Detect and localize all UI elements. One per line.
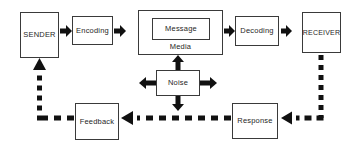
node-encoding[interactable]: Encoding bbox=[72, 16, 113, 45]
node-decoding[interactable]: Decoding bbox=[235, 16, 279, 46]
node-response[interactable]: Response bbox=[232, 103, 278, 139]
arrow-noise-down bbox=[172, 96, 184, 111]
node-feedback-label: Feedback bbox=[80, 118, 115, 126]
arrow-sender-to-encoding bbox=[60, 25, 72, 37]
arrow-media-to-decoding bbox=[224, 25, 235, 37]
dashed-feedback-to-sender bbox=[33, 58, 74, 121]
node-noise-label: Noise bbox=[168, 79, 188, 87]
node-noise[interactable]: Noise bbox=[156, 70, 200, 96]
dashed-receiver-to-response bbox=[281, 112, 324, 125]
node-receiver[interactable]: RECEIVER bbox=[302, 12, 341, 53]
arrow-encoding-to-media bbox=[114, 25, 126, 37]
arrow-noise-left bbox=[139, 77, 156, 89]
node-receiver-label: RECEIVER bbox=[303, 29, 340, 36]
arrow-noise-right bbox=[200, 77, 217, 89]
node-media-label: Media bbox=[139, 43, 222, 51]
node-message-label: Message bbox=[165, 25, 197, 33]
node-encoding-label: Encoding bbox=[76, 27, 109, 35]
node-feedback[interactable]: Feedback bbox=[75, 103, 119, 140]
node-sender-label: SENDER bbox=[23, 31, 55, 39]
dashed-response-to-feedback bbox=[121, 111, 231, 125]
node-sender[interactable]: SENDER bbox=[20, 12, 59, 58]
communication-process-diagram: SENDER Encoding Message Media Decoding R… bbox=[0, 0, 351, 149]
node-message[interactable]: Message bbox=[152, 18, 210, 40]
node-response-label: Response bbox=[237, 117, 272, 125]
node-media[interactable]: Message Media bbox=[138, 10, 223, 55]
node-decoding-label: Decoding bbox=[240, 27, 273, 35]
arrow-noise-up-to-media bbox=[172, 55, 184, 70]
arrow-decoding-to-receiver bbox=[281, 25, 292, 37]
